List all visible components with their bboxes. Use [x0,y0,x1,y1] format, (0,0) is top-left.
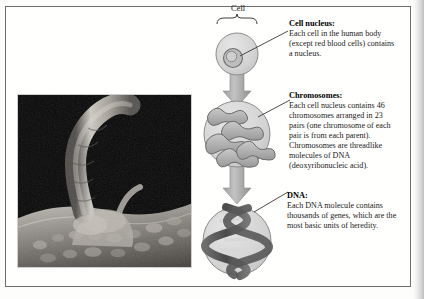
cell-brace [217,14,257,24]
callout-body-chromosomes: Each cell nucleus contains 46 chromosome… [289,101,399,170]
callout-cell-nucleus: Cell nucleus: Each cell in the human bod… [289,19,397,59]
cell-photograph [17,94,192,268]
leader-line-dna [254,192,288,212]
electron-micrograph-image [18,95,191,267]
cell-diagram [216,33,258,75]
callout-body-nucleus: Each cell in the human body (except red … [289,29,397,59]
callout-body-dna: Each DNA molecule contains thousands of … [287,201,409,231]
callout-title-chromosomes: Chromosomes: [289,91,399,101]
callout-chromosomes: Chromosomes: Each cell nucleus contains … [289,91,399,171]
cell-label: Cell [231,3,245,13]
callout-dna: DNA: Each DNA molecule contains thousand… [287,191,409,231]
page-gutter-shadow [412,0,424,299]
callout-title-nucleus: Cell nucleus: [289,19,397,29]
callout-title-dna: DNA: [287,191,409,201]
chromosomes-diagram [204,101,275,167]
dna-diagram [203,207,271,276]
arrow-chromosomes-to-dna [223,165,251,204]
figure-panel: Bonnier Alba [0,0,424,299]
leader-line-chromosomes [258,100,290,117]
